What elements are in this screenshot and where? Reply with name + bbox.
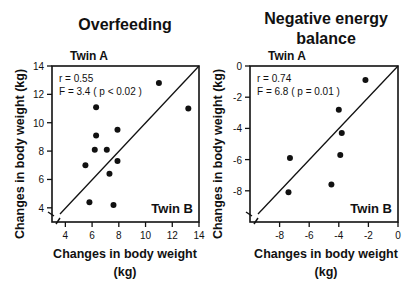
data-point xyxy=(337,152,343,158)
y-tick-label: 4 xyxy=(38,203,44,214)
chart-title: Negative energy xyxy=(264,10,388,27)
data-point xyxy=(185,106,191,112)
data-point xyxy=(114,127,120,133)
y-tick-label: 8 xyxy=(38,146,44,157)
y-axis-label: Changes in body weight (kg) xyxy=(211,69,225,239)
x-tick-label: 0 xyxy=(395,230,401,241)
data-point xyxy=(328,182,334,188)
data-point xyxy=(92,147,98,153)
x-axis-label-unit: (kg) xyxy=(114,265,137,279)
data-point xyxy=(104,147,110,153)
chart-title: balance xyxy=(296,30,356,47)
chart-title: Overfeeding xyxy=(78,16,171,33)
y-tick-label: 0 xyxy=(236,61,242,72)
x-tick-label: 6 xyxy=(89,230,95,241)
twin-a-label: Twin A xyxy=(268,49,306,63)
y-tick-label: 6 xyxy=(38,174,44,185)
data-point xyxy=(287,155,293,161)
x-tick-label: 14 xyxy=(193,230,205,241)
y-axis-label: Changes in body weight (kg) xyxy=(13,69,27,239)
y-tick-label: 14 xyxy=(33,61,45,72)
x-tick-label: -6 xyxy=(305,230,314,241)
x-tick-label: -2 xyxy=(364,230,373,241)
data-point xyxy=(285,189,291,195)
stat-annotation: F = 3.4 ( p < 0.02 ) xyxy=(59,86,142,97)
x-tick-label: -8 xyxy=(275,230,284,241)
twin-weight-charts: OverfeedingTwin A468101214468101214r = 0… xyxy=(0,0,416,286)
x-tick-label: -4 xyxy=(334,230,343,241)
x-tick-label: 12 xyxy=(167,230,179,241)
twin-a-label: Twin A xyxy=(70,49,108,63)
data-point xyxy=(93,104,99,110)
y-tick-label: 12 xyxy=(33,89,45,100)
data-point xyxy=(339,130,345,136)
y-tick-label: -8 xyxy=(233,186,242,197)
y-tick-label: 10 xyxy=(33,118,45,129)
data-point xyxy=(336,107,342,113)
x-axis-label-unit: (kg) xyxy=(315,265,338,279)
twin-b-label: Twin B xyxy=(350,201,392,216)
twin-b-label: Twin B xyxy=(151,201,193,216)
x-tick-label: 4 xyxy=(63,230,69,241)
chart-panel-1: OverfeedingTwin A468101214468101214r = 0… xyxy=(13,16,205,279)
x-axis-label: Changes in body weight xyxy=(254,247,399,261)
x-tick-label: 10 xyxy=(140,230,152,241)
data-point xyxy=(82,162,88,168)
data-point xyxy=(110,202,116,208)
data-point xyxy=(93,132,99,138)
chart-panel-2: Negative energybalanceTwin A-8-6-4-20-8-… xyxy=(211,10,401,279)
data-point xyxy=(86,199,92,205)
x-tick-label: 8 xyxy=(116,230,122,241)
x-axis-label: Changes in body weight xyxy=(53,247,198,261)
y-tick-label: -6 xyxy=(233,155,242,166)
y-tick-label: -2 xyxy=(233,92,242,103)
stat-annotation: r = 0.55 xyxy=(59,73,94,84)
y-tick-label: -4 xyxy=(233,123,242,134)
data-point xyxy=(362,77,368,83)
data-point xyxy=(156,80,162,86)
data-point xyxy=(114,158,120,164)
stat-annotation: r = 0.74 xyxy=(257,73,292,84)
data-point xyxy=(106,171,112,177)
stat-annotation: F = 6.8 ( p = 0.01 ) xyxy=(257,86,340,97)
